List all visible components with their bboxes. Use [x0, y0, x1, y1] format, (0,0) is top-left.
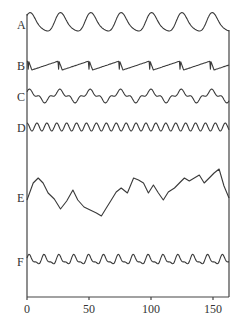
trace-label-a: A	[17, 18, 26, 32]
trace-label-c: C	[17, 90, 25, 104]
trace-c	[27, 89, 229, 103]
trace-f	[27, 254, 229, 263]
trace-e	[27, 169, 229, 216]
trace-d	[27, 123, 229, 131]
trace-a	[27, 13, 229, 32]
trace-label-f: F	[17, 255, 24, 269]
tick-label-150: 150	[204, 302, 222, 316]
tick-label-100: 100	[142, 302, 160, 316]
trace-label-b: B	[17, 59, 25, 73]
trace-label-d: D	[17, 121, 26, 135]
chart: 0 50 100 150 A B C D E F	[0, 0, 244, 331]
trace-label-e: E	[17, 191, 24, 205]
trace-b	[27, 61, 229, 70]
tick-label-50: 50	[83, 302, 95, 316]
tick-label-0: 0	[24, 302, 30, 316]
